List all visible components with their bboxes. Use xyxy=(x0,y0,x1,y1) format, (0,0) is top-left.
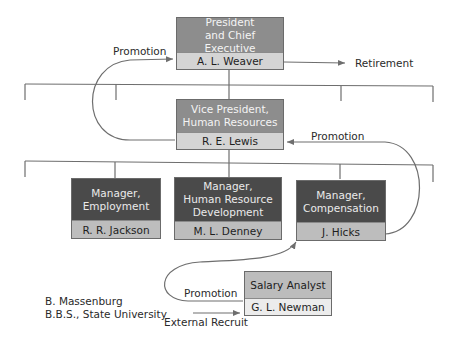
manager-hrd-title-line1: Manager, xyxy=(203,180,252,193)
manager-hrd-title: Manager, Human Resource Development xyxy=(175,178,281,221)
vp-hr-name: R. E. Lewis xyxy=(177,132,283,149)
vp-hr-title-line1: Vice President, xyxy=(191,103,269,116)
president-box: President and Chief Executive A. L. Weav… xyxy=(176,17,284,70)
manager-hrd-box: Manager, Human Resource Development M. L… xyxy=(174,177,282,240)
salary-analyst-title: Salary Analyst xyxy=(245,272,331,298)
vp-hr-title: Vice President, Human Resources xyxy=(177,100,283,132)
external-recruit-label: External Recruit xyxy=(164,316,248,329)
org-chart: President and Chief Executive A. L. Weav… xyxy=(0,0,452,344)
vp-hr-title-line2: Human Resources xyxy=(183,116,278,129)
candidate-degree: B.B.S., State University xyxy=(45,308,167,321)
manager-employment-title: Manager, Employment xyxy=(72,179,160,220)
promotion-label-mid: Promotion xyxy=(311,130,364,143)
manager-employment-box: Manager, Employment R. R. Jackson xyxy=(71,178,161,239)
president-name: A. L. Weaver xyxy=(177,52,283,69)
manager-compensation-name: J. Hicks xyxy=(297,222,385,240)
president-title-line1: President xyxy=(206,16,255,29)
candidate-name: B. Massenburg xyxy=(45,295,123,308)
vp-hr-box: Vice President, Human Resources R. E. Le… xyxy=(176,99,284,150)
manager-compensation-box: Manager, Compensation J. Hicks xyxy=(296,180,386,241)
promotion-label-top: Promotion xyxy=(113,45,166,58)
president-title-line2: and Chief Executive xyxy=(181,29,279,55)
manager-compensation-title-line1: Manager, xyxy=(316,189,365,202)
salary-analyst-name: G. L. Newman xyxy=(245,298,331,315)
manager-employment-title-line1: Manager, xyxy=(91,187,140,200)
manager-hrd-title-line2: Human Resource xyxy=(183,193,272,206)
manager-hrd-name: M. L. Denney xyxy=(175,221,281,239)
manager-employment-title-line2: Employment xyxy=(83,200,150,213)
manager-hrd-title-line3: Development xyxy=(193,206,264,219)
promotion-label-bottom: Promotion xyxy=(184,287,237,300)
manager-compensation-title: Manager, Compensation xyxy=(297,181,385,222)
retirement-label: Retirement xyxy=(355,57,413,70)
president-title: President and Chief Executive xyxy=(177,18,283,52)
manager-employment-name: R. R. Jackson xyxy=(72,220,160,238)
manager-compensation-title-line2: Compensation xyxy=(303,202,379,215)
salary-analyst-box: Salary Analyst G. L. Newman xyxy=(244,271,332,316)
